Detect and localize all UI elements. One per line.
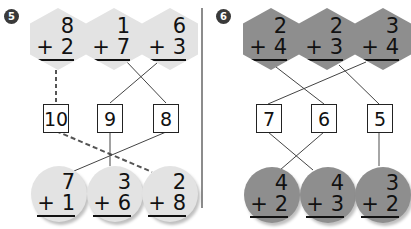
answer-box: 9 <box>97 104 123 133</box>
answer-box: 5 <box>367 104 393 133</box>
answer-box: 6 <box>311 104 337 133</box>
circle-problem: 3+ 2 <box>355 167 411 223</box>
section-divider <box>201 8 203 208</box>
problem-6-number-badge: 6 <box>216 9 231 24</box>
circle-problem: 2+ 8 <box>142 166 198 222</box>
problem-5-number-badge: 5 <box>4 9 19 24</box>
circle-problem: 4+ 2 <box>244 167 300 223</box>
circle-problem: 7+ 1 <box>31 166 87 222</box>
answer-box: 10 <box>43 104 69 133</box>
answer-box: 8 <box>153 104 179 133</box>
answer-box: 7 <box>256 104 282 133</box>
circle-problem: 3+ 6 <box>87 166 143 222</box>
circle-problem: 4+ 3 <box>300 167 356 223</box>
